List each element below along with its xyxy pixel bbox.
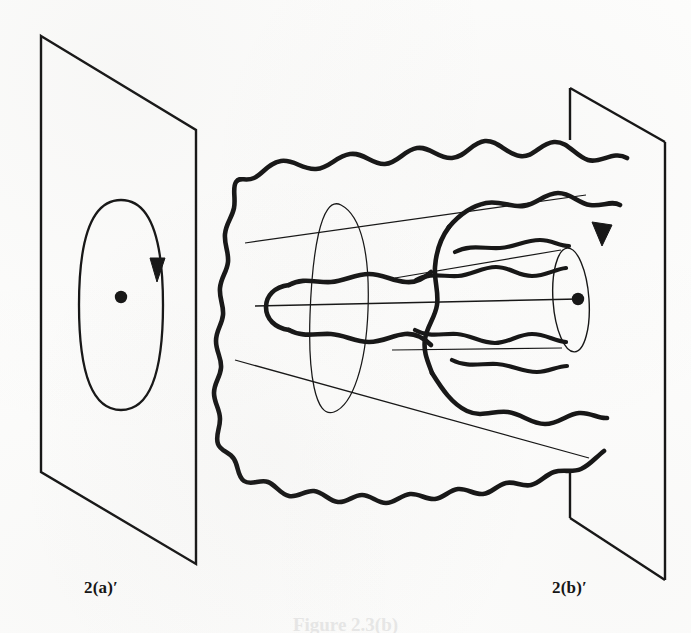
tube-orientation-arrow-icon	[592, 222, 612, 246]
cone-bottom-generator	[235, 360, 589, 458]
right-base-point	[572, 293, 584, 305]
figure-drawing-canvas	[0, 0, 691, 633]
left-wavy-finger-group	[266, 272, 431, 345]
right-plane-bottom-edge	[570, 518, 665, 580]
inner-wavy-boundary-bottom	[432, 373, 607, 424]
inner-cone-bottom-generator	[392, 348, 562, 350]
cone-left-cross-section	[310, 204, 369, 413]
inner-core-bottom-wave	[415, 330, 566, 343]
cone-axis-line	[255, 299, 578, 306]
inner-core-secondary-bottom-wave	[452, 360, 567, 372]
orientation-arrows-group	[592, 222, 612, 246]
right-plane-top-left-edge	[570, 88, 665, 142]
left-base-point	[115, 291, 127, 303]
right-base-point-group	[572, 293, 584, 305]
inner-core-top-wave	[416, 267, 566, 280]
figure-caption-cut-off: Figure 2.3(b)	[0, 614, 691, 633]
left-finger-tip	[266, 285, 289, 330]
figure-root: 2(a)′ 2(b)′ Figure 2.3(b)	[0, 0, 691, 633]
right-panel-group	[570, 88, 665, 580]
left-panel-label: 2(a)′	[84, 578, 118, 598]
left-panel-group	[41, 36, 196, 564]
left-wavy-finger	[289, 272, 431, 285]
inner-core-secondary-top-wave	[455, 240, 569, 252]
perspective-cone-group	[235, 195, 593, 458]
oriented-loop	[79, 200, 163, 410]
right-panel-label: 2(b)′	[552, 578, 587, 598]
inner-wavy-boundary-left-neck	[425, 227, 449, 373]
